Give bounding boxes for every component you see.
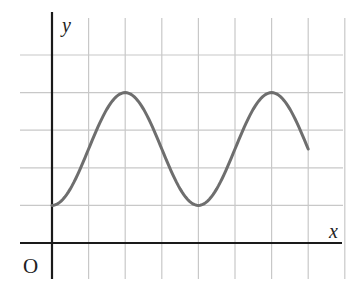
sine-graph: y x O: [0, 0, 352, 297]
grid: [20, 18, 345, 279]
sinusoid-curve: [52, 93, 308, 206]
origin-label: O: [23, 254, 38, 278]
y-axis-label: y: [60, 14, 71, 37]
axes: [20, 12, 342, 279]
x-axis-label: x: [328, 220, 338, 242]
